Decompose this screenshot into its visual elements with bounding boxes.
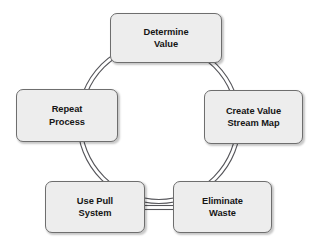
- node-eliminate-waste-line2: Waste: [209, 207, 236, 220]
- node-create-value-stream-map-line1: Create Value: [226, 105, 281, 118]
- node-eliminate-waste-line1: Eliminate: [202, 195, 243, 208]
- node-eliminate-waste[interactable]: Eliminate Waste: [173, 181, 272, 233]
- node-create-value-stream-map[interactable]: Create Value Stream Map: [204, 90, 303, 144]
- node-create-value-stream-map-line2: Stream Map: [227, 117, 279, 130]
- node-use-pull-system[interactable]: Use Pull System: [45, 181, 145, 233]
- cycle-diagram: Determine Value Create Value Stream Map …: [0, 0, 319, 245]
- node-determine-value-line1: Determine: [143, 26, 188, 39]
- node-use-pull-system-line1: Use Pull: [77, 195, 113, 208]
- node-repeat-process-line2: Process: [49, 116, 85, 129]
- node-determine-value-line2: Value: [154, 38, 178, 51]
- node-use-pull-system-line2: System: [79, 207, 112, 220]
- node-repeat-process[interactable]: Repeat Process: [16, 89, 118, 142]
- node-repeat-process-line1: Repeat: [52, 103, 83, 116]
- node-determine-value[interactable]: Determine Value: [110, 13, 222, 63]
